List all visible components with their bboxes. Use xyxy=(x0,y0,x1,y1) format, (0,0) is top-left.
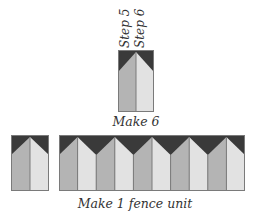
step-6-label: Step 6 xyxy=(134,9,146,48)
fence-strip xyxy=(59,135,245,191)
step-labels: Step 5 Step 6 xyxy=(118,2,154,48)
fence-strip-graphic xyxy=(59,135,245,191)
step-5-label: Step 5 xyxy=(119,9,131,48)
picket-block-graphic xyxy=(11,135,49,191)
picket-block-single xyxy=(118,50,154,112)
picket-block-graphic xyxy=(118,50,154,112)
make-fence-caption: Make 1 fence unit xyxy=(70,196,200,211)
picket-block-loose xyxy=(11,135,49,191)
make-6-caption: Make 6 xyxy=(96,114,176,129)
